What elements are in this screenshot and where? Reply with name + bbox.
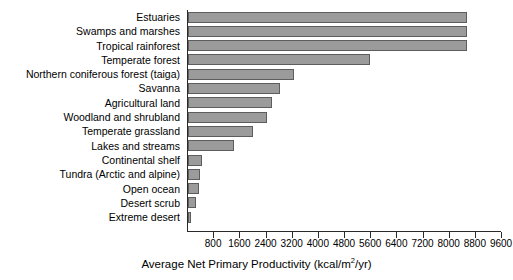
bar [188,212,191,223]
bar [188,155,202,166]
x-axis-tick-label: 7200 [411,238,433,249]
category-label: Tropical rainforest [0,39,184,53]
bar-row [187,210,501,224]
bar [188,112,267,123]
bar [188,26,467,37]
x-axis-tick-label: 1600 [228,238,250,249]
bar-chart: EstuariesSwamps and marshesTropical rain… [0,0,513,280]
x-axis-tick-label: 9600 [490,238,512,249]
x-axis-title-before: Average Net Primary Productivity (kcal/m [141,258,350,270]
x-axis-tick-label: 4000 [307,238,329,249]
category-label: Lakes and streams [0,139,184,153]
category-label: Northern coniferous forest (taiga) [0,67,184,81]
bar-row [187,153,501,167]
category-label: Estuaries [0,10,184,24]
category-label: Open ocean [0,182,184,196]
category-label: Temperate forest [0,53,184,67]
x-axis-title: Average Net Primary Productivity (kcal/m… [0,256,513,270]
bar-row [187,53,501,67]
bar [188,140,234,151]
bar [188,54,370,65]
bar-row [187,167,501,181]
category-label: Desert scrub [0,196,184,210]
bar [188,183,199,194]
x-axis-tick-labels: 8001600240032004000480056006400720080008… [0,238,513,252]
bar-row [187,67,501,81]
category-label: Woodland and shrubland [0,110,184,124]
bar-row [187,39,501,53]
category-label: Swamps and marshes [0,24,184,38]
bar-row [187,139,501,153]
bar-row [187,10,501,24]
bar [188,97,272,108]
x-axis-title-after: /yr) [355,258,372,270]
bar [188,197,196,208]
bar-row [187,196,501,210]
x-axis-tick-label: 800 [205,238,222,249]
bar-row [187,24,501,38]
bar [188,12,467,23]
category-label: Continental shelf [0,153,184,167]
bar-row [187,81,501,95]
bar [188,126,253,137]
bar [188,169,200,180]
bar [188,40,467,51]
x-axis-tick-label: 5600 [359,238,381,249]
category-label: Agricultural land [0,96,184,110]
bar-series [187,10,501,224]
bar-row [187,110,501,124]
bar [188,69,294,80]
category-label: Extreme desert [0,210,184,224]
x-axis-tick-label: 8000 [438,238,460,249]
x-axis-tick-label: 6400 [385,238,407,249]
category-label: Temperate grassland [0,124,184,138]
category-label: Savanna [0,81,184,95]
bar-row [187,182,501,196]
bar-row [187,124,501,138]
x-axis-tick-label: 3200 [281,238,303,249]
category-label-column: EstuariesSwamps and marshesTropical rain… [0,10,184,224]
x-axis-tick-label: 4800 [333,238,355,249]
x-axis-tick-label: 8800 [464,238,486,249]
bar-row [187,96,501,110]
x-axis-tick-label: 2400 [254,238,276,249]
plot-area [187,10,501,232]
category-label: Tundra (Arctic and alpine) [0,167,184,181]
bar [188,83,280,94]
